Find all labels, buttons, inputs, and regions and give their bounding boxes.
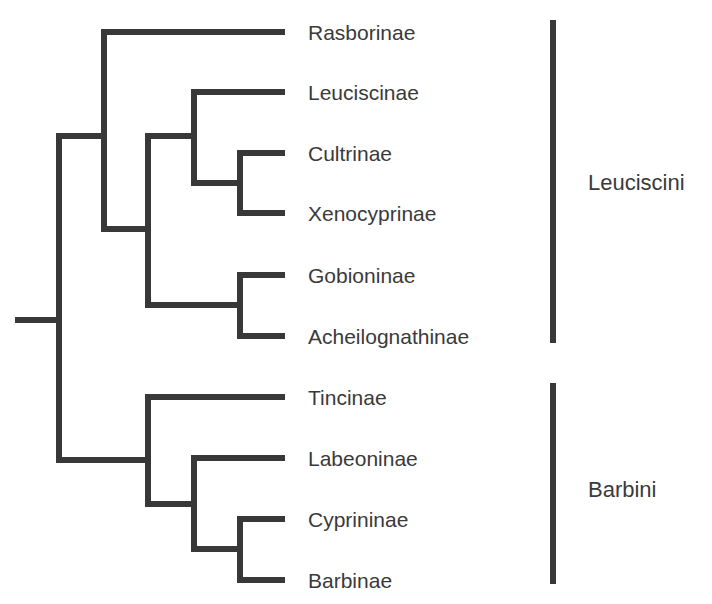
taxon-label-barbinae: Barbinae xyxy=(308,570,392,591)
gobioninae-acheilognathinae-node xyxy=(240,275,285,336)
taxon-label-gobioninae: Gobioninae xyxy=(308,265,415,286)
taxon-label-leuciscinae: Leuciscinae xyxy=(308,82,419,103)
leuciscini-bracket xyxy=(550,20,556,343)
taxon-label-rasborinae: Rasborinae xyxy=(308,22,415,43)
group-label-leuciscini: Leuciscini xyxy=(588,172,685,194)
taxon-label-tincinae: Tincinae xyxy=(308,387,387,408)
taxon-label-xenocyprinae: Xenocyprinae xyxy=(308,203,436,224)
taxon-label-cultrinae: Cultrinae xyxy=(308,143,392,164)
cyprininae-barbinae-node xyxy=(240,519,285,580)
barbini-node xyxy=(148,397,285,504)
taxon-label-labeoninae: Labeoninae xyxy=(308,448,418,469)
taxon-label-cyprininae: Cyprininae xyxy=(308,509,408,530)
cultrinae-xenocyprinae-node xyxy=(240,153,285,213)
barbini-bracket xyxy=(550,383,556,584)
group-label-barbini: Barbini xyxy=(588,479,656,501)
taxon-label-acheilognathinae: Acheilognathinae xyxy=(308,326,469,347)
